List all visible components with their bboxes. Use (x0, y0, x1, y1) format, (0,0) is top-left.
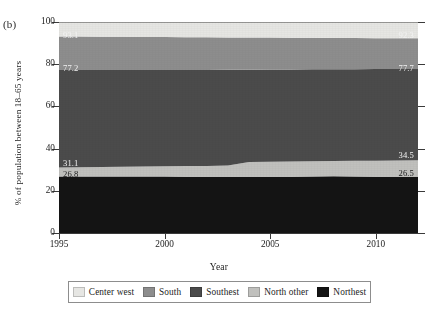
x-axis-line (59, 233, 418, 234)
legend-swatch-icon (73, 287, 85, 297)
x-tick-label-2005: 2005 (246, 240, 294, 249)
legend-item-northest[interactable]: Northest (317, 287, 366, 297)
legend-item-center-west[interactable]: Center west (73, 287, 134, 297)
legend-swatch-icon (143, 287, 155, 297)
stacked-area-series (59, 22, 418, 233)
figure-panel: (b) % of population between 18–65 years … (0, 0, 438, 313)
legend-item-north-other[interactable]: North other (248, 287, 308, 297)
y-tick-label-0: 0 (15, 228, 55, 237)
y-tick-mark-right-100 (418, 22, 425, 23)
legend-item-south[interactable]: South (143, 287, 181, 297)
y-tick-mark-right-80 (418, 64, 425, 65)
legend-item-label: North other (264, 287, 308, 297)
value-label-right-south: 77.7 (368, 64, 414, 73)
chart-legend: Center westSouthSouthestNorth otherNorth… (68, 281, 371, 303)
legend-item-label: Northest (333, 287, 366, 297)
y-tick-label-100: 100 (15, 17, 55, 26)
area-band-southest (59, 69, 418, 167)
value-label-right-north-other: 34.5 (368, 151, 414, 160)
legend-item-label: Southest (206, 287, 239, 297)
value-label-right-center-west: 92.3 (368, 31, 414, 40)
y-tick-label-80: 80 (15, 59, 55, 68)
y-tick-label-60: 60 (15, 101, 55, 110)
legend-item-southest[interactable]: Southest (190, 287, 239, 297)
legend-swatch-icon (248, 287, 260, 297)
area-band-northest (59, 176, 418, 233)
y-tick-label-20: 20 (15, 186, 55, 195)
x-axis-title: Year (0, 262, 438, 272)
plot-area (59, 22, 418, 233)
legend-swatch-icon (317, 287, 329, 297)
x-tick-label-2010: 2010 (352, 240, 400, 249)
value-label-left-north-other: 31.1 (63, 159, 78, 168)
value-label-left-center-west: 93.1 (63, 31, 78, 40)
value-label-left-northest: 26.8 (63, 170, 78, 179)
legend-item-label: Center west (89, 287, 134, 297)
y-tick-mark-right-60 (418, 106, 425, 107)
legend-item-label: South (159, 287, 181, 297)
x-tick-label-1995: 1995 (35, 240, 83, 249)
area-band-south (59, 37, 418, 71)
value-label-left-south: 77.2 (63, 64, 78, 73)
area-band-center-west (59, 22, 418, 38)
y-tick-mark-right-0 (418, 233, 425, 234)
value-label-right-northest: 26.5 (368, 169, 414, 178)
y-tick-mark-right-20 (418, 191, 425, 192)
legend-swatch-icon (190, 287, 202, 297)
y-axis-title: % of population between 18–65 years (13, 23, 23, 243)
y-tick-mark-right-40 (418, 149, 425, 150)
x-tick-label-2000: 2000 (141, 240, 189, 249)
y-tick-label-40: 40 (15, 144, 55, 153)
